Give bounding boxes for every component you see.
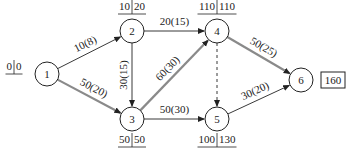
edge-3-4: 60(30) — [140, 40, 208, 110]
edge-2-3: 30(15) — [117, 43, 132, 106]
node-2: 2 — [120, 19, 144, 43]
edge-label: 30(15) — [117, 60, 130, 90]
latest-time: 50 — [134, 133, 146, 145]
edge-label: 10(8) — [72, 33, 99, 56]
node-number: 1 — [44, 68, 50, 80]
edge-1-3: 50(20) — [58, 75, 121, 112]
node-number: 2 — [129, 25, 135, 37]
edge-label: 50(25) — [248, 34, 280, 60]
node-number: 4 — [214, 25, 220, 37]
node-times-5: 100130 — [198, 133, 237, 147]
node-times-4: 110110 — [198, 0, 237, 14]
edge-label: 60(30) — [153, 53, 183, 83]
edge-label: 50(30) — [160, 103, 190, 116]
edge-1-2: 10(8) — [58, 33, 121, 69]
node-times-2: 1020 — [118, 0, 146, 14]
node-3: 3 — [120, 107, 144, 131]
node-times-3: 5050 — [118, 133, 146, 147]
earliest-time: 0 — [7, 60, 13, 72]
node-5: 5 — [205, 107, 229, 131]
latest-time: 130 — [219, 133, 236, 145]
network-svg: 10(8)50(20)30(15)20(15)60(30)50(30)50(25… — [0, 0, 348, 158]
node-6: 6 — [289, 68, 313, 92]
latest-time: 0 — [16, 60, 22, 72]
node-number: 6 — [298, 74, 304, 86]
earliest-time: 110 — [199, 0, 216, 12]
latest-time: 20 — [134, 0, 146, 12]
node-1: 1 — [35, 62, 59, 86]
edge-2-4: 20(15) — [144, 15, 204, 31]
latest-time: 110 — [219, 0, 236, 12]
edge-label: 20(15) — [160, 15, 190, 28]
edge-4-6: 50(25) — [227, 34, 289, 73]
node-times-1: 00 — [6, 60, 23, 74]
edge-3-5: 50(30) — [144, 103, 204, 119]
node-4: 4 — [205, 19, 229, 43]
earliest-time: 100 — [199, 133, 216, 145]
total-duration-box: 160 — [321, 72, 345, 88]
edges-layer: 10(8)50(20)30(15)20(15)60(30)50(30)50(25… — [58, 15, 290, 119]
earliest-time: 10 — [119, 0, 131, 12]
edge-label: 50(20) — [78, 75, 110, 100]
edge-5-6: 30(20) — [228, 79, 289, 114]
earliest-time: 50 — [119, 133, 131, 145]
node-number: 3 — [129, 113, 135, 125]
node-number: 5 — [214, 113, 220, 125]
total-duration-value: 160 — [325, 74, 342, 86]
edge-label: 30(20) — [239, 79, 271, 103]
network-diagram: 10(8)50(20)30(15)20(15)60(30)50(30)50(25… — [0, 0, 348, 158]
